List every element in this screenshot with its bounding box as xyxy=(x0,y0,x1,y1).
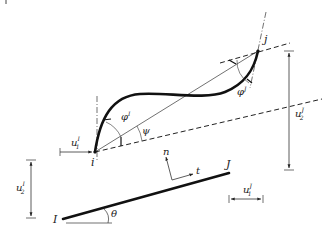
dashed-reference-line-i xyxy=(95,99,322,152)
svg-text:uJ1: uJ1 xyxy=(243,182,252,197)
label-phi-j: φJ xyxy=(237,85,247,97)
label-node-i: i xyxy=(91,156,95,169)
label-node-J: J xyxy=(224,158,231,171)
beam-kinematics-diagram: i j φI ψ φJ uJ2 uI1 uI2 θ I J xyxy=(0,0,322,236)
label-psi: ψ xyxy=(142,125,150,136)
svg-text:uI2: uI2 xyxy=(16,180,25,195)
dimension-u1-I: uI1 xyxy=(60,135,92,156)
angle-arc-theta xyxy=(104,209,109,223)
tick-phi-j-top xyxy=(229,60,236,64)
local-axes-n-t: n t xyxy=(163,146,201,180)
label-node-j: j xyxy=(261,33,268,46)
svg-text:t: t xyxy=(196,165,201,176)
dimension-u2-J: uJ2 xyxy=(284,51,304,170)
svg-text:n: n xyxy=(163,146,169,157)
label-theta: θ xyxy=(111,208,117,219)
svg-text:uJ2: uJ2 xyxy=(295,106,304,121)
node-j-dot xyxy=(256,49,259,52)
node-i-dot xyxy=(93,150,96,153)
svg-text:uI1: uI1 xyxy=(71,135,80,150)
initial-beam-IJ xyxy=(63,173,229,219)
label-node-I: I xyxy=(52,213,58,226)
dimension-u1-J: uJ1 xyxy=(229,182,263,203)
dimension-u2-I: uI2 xyxy=(16,160,36,218)
angle-arc-phi-i xyxy=(106,122,121,137)
label-phi-i: φI xyxy=(121,110,131,122)
